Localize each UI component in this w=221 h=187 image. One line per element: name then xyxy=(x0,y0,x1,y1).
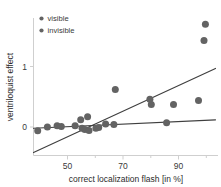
y-tick-label-1: 1 xyxy=(22,62,27,72)
regression-line-invisible xyxy=(34,68,216,152)
chart-legend: visible invisible xyxy=(39,14,74,35)
scatter-plot: 50 70 90 0 1 correct localization flash … xyxy=(0,0,221,187)
x-tick-label-50: 50 xyxy=(63,161,73,171)
legend-marker-visible xyxy=(39,16,43,20)
series-invisible xyxy=(77,21,209,124)
legend-label-visible: visible xyxy=(48,14,69,23)
x-axis-major-ticks xyxy=(68,156,179,160)
y-axis-ticks xyxy=(30,67,34,128)
legend-marker-invisible xyxy=(39,28,43,32)
series-visible xyxy=(34,119,170,134)
y-axis-title: ventriloquist effect xyxy=(5,52,15,121)
x-axis-title: correct localization flash [in %] xyxy=(69,174,183,184)
x-tick-label-70: 70 xyxy=(118,161,128,171)
y-tick-label-0: 0 xyxy=(22,122,27,132)
x-tick-label-90: 90 xyxy=(174,161,184,171)
legend-label-invisible: invisible xyxy=(48,26,75,35)
chart-figure: 50 70 90 0 1 correct localization flash … xyxy=(0,0,221,187)
